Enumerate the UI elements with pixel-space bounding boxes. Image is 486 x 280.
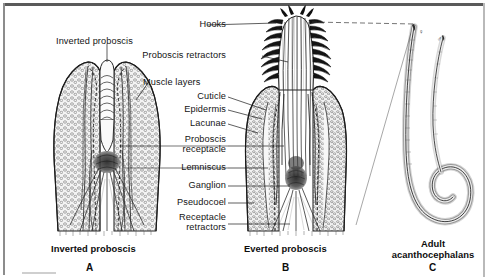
panel-b-artwork bbox=[246, 5, 347, 236]
page-bottom-artifact bbox=[22, 272, 56, 274]
scan-frame-top-edge bbox=[3, 3, 483, 6]
label-hooks: Hooks bbox=[168, 19, 226, 29]
label-pseudocoel: Pseudocoel bbox=[140, 197, 226, 207]
label-cuticle: Cuticle bbox=[150, 91, 226, 101]
female-symbol: ♀ bbox=[419, 28, 424, 35]
label-receptacle-retractors: Receptacle retractors bbox=[156, 212, 226, 233]
magnification-guides bbox=[312, 22, 414, 226]
panel-b-caption: Everted proboscis bbox=[244, 243, 327, 254]
male-symbol: ♂ bbox=[437, 35, 442, 42]
label-muscle-layers: Muscle layers bbox=[143, 77, 200, 87]
label-lacunae: Lacunae bbox=[146, 118, 226, 128]
label-ganglion: Ganglion bbox=[146, 180, 226, 190]
scan-frame-right-edge bbox=[483, 3, 485, 277]
panel-c-artwork bbox=[405, 24, 471, 222]
figure-canvas: Inverted proboscis Muscle layers Hooks P… bbox=[0, 0, 486, 280]
label-proboscis-retractors: Proboscis retractors bbox=[110, 50, 226, 60]
panel-c-letter: C bbox=[429, 262, 436, 273]
label-lemniscus: Lemniscus bbox=[140, 162, 226, 172]
panel-b-letter: B bbox=[282, 262, 289, 273]
label-inverted-proboscis: Inverted proboscis bbox=[56, 36, 133, 46]
panel-c-caption-line1: Adult bbox=[421, 238, 445, 249]
panel-a-caption: Inverted proboscis bbox=[51, 243, 136, 254]
panel-a-letter: A bbox=[86, 262, 93, 273]
scan-frame-left-edge bbox=[3, 3, 5, 275]
label-proboscis-receptacle: Proboscis receptacle bbox=[156, 134, 226, 155]
label-epidermis: Epidermis bbox=[140, 104, 226, 114]
panel-c-caption-line2: acanthocephalans bbox=[392, 249, 475, 260]
